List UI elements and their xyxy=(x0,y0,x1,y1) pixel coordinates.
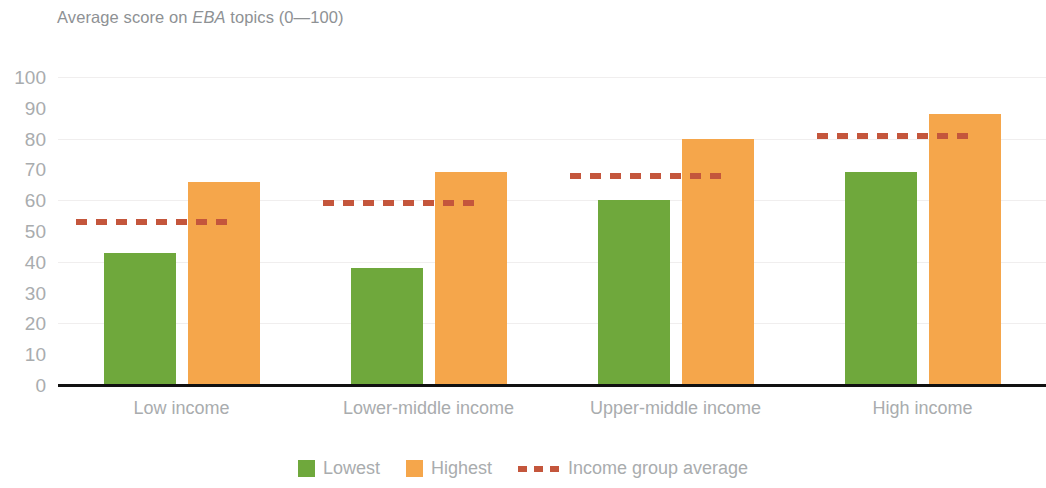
y-axis-tick-label: 40 xyxy=(25,252,46,271)
bar-highest-low-income xyxy=(188,182,260,385)
chart-title-suffix: topics (0—100) xyxy=(226,8,344,26)
legend-label: Lowest xyxy=(323,458,380,479)
bar-lowest-low-income xyxy=(104,253,176,385)
y-axis-tick-label: 90 xyxy=(25,98,46,117)
y-axis-tick-label: 0 xyxy=(35,376,46,395)
plot-area xyxy=(58,77,1046,385)
chart-title: Average score on EBA topics (0—100) xyxy=(57,8,344,27)
bar-chart: Average score on EBA topics (0—100) 1009… xyxy=(0,0,1046,488)
legend-item-income-group-average[interactable]: Income group average xyxy=(518,458,748,479)
legend-dashed-line-icon xyxy=(518,466,560,472)
gridline xyxy=(58,77,1046,78)
x-axis-label-low-income: Low income xyxy=(133,398,229,419)
legend-label: Income group average xyxy=(568,458,748,479)
bar-highest-high-income xyxy=(929,114,1001,385)
y-axis: 1009080706050403020100 xyxy=(0,0,58,488)
bar-lowest-upper-middle-income xyxy=(598,200,670,385)
y-axis-tick-label: 100 xyxy=(14,68,46,87)
y-axis-tick-label: 70 xyxy=(25,160,46,179)
bar-lowest-high-income xyxy=(845,172,917,385)
legend-swatch-icon xyxy=(298,460,315,477)
y-axis-tick-label: 60 xyxy=(25,191,46,210)
chart-title-emphasis: EBA xyxy=(192,8,225,26)
bar-lowest-lower-middle-income xyxy=(351,268,423,385)
income-group-average-line xyxy=(76,219,231,225)
income-group-average-line xyxy=(817,133,972,139)
chart-legend: LowestHighestIncome group average xyxy=(0,458,1046,479)
legend-swatch-icon xyxy=(406,460,423,477)
x-axis-label-high-income: High income xyxy=(872,398,972,419)
legend-item-highest[interactable]: Highest xyxy=(406,458,492,479)
x-axis-label-upper-middle-income: Upper-middle income xyxy=(590,398,761,419)
y-axis-tick-label: 80 xyxy=(25,129,46,148)
income-group-average-line xyxy=(570,173,725,179)
legend-label: Highest xyxy=(431,458,492,479)
y-axis-tick-label: 10 xyxy=(25,345,46,364)
income-group-average-line xyxy=(323,200,478,206)
gridline xyxy=(58,139,1046,140)
x-axis-baseline xyxy=(58,384,1046,387)
chart-title-prefix: Average score on xyxy=(57,8,192,26)
y-axis-tick-label: 30 xyxy=(25,283,46,302)
legend-item-lowest[interactable]: Lowest xyxy=(298,458,380,479)
y-axis-tick-label: 50 xyxy=(25,222,46,241)
x-axis-label-lower-middle-income: Lower-middle income xyxy=(343,398,514,419)
y-axis-tick-label: 20 xyxy=(25,314,46,333)
